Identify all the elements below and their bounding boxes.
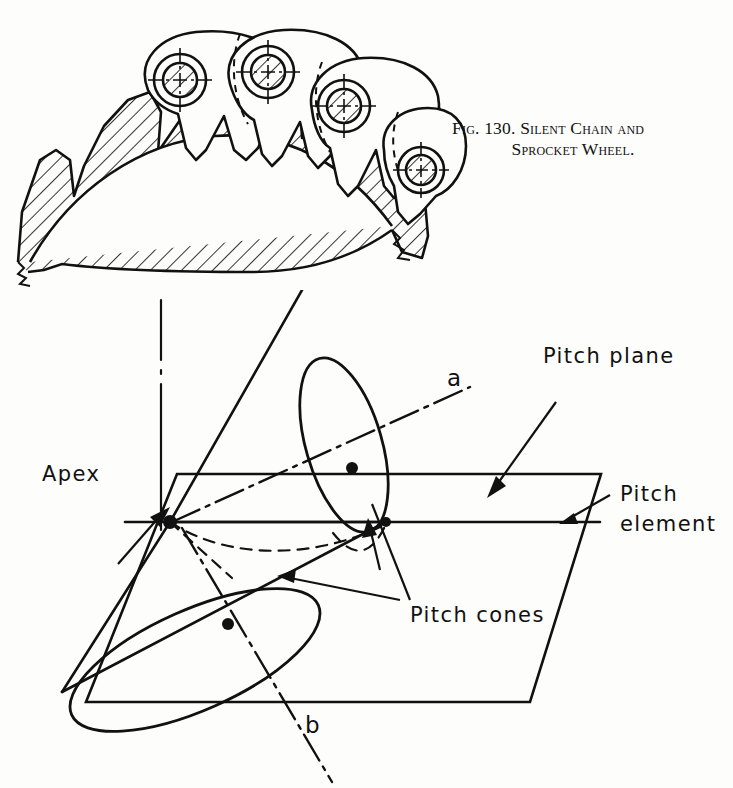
- caption-line-1: Fig. 130. Silent Chain and: [452, 118, 720, 139]
- axis-a-centerline: [172, 387, 470, 522]
- pitch-element-leader: [559, 495, 610, 524]
- upper-cone-axis-point: [346, 462, 358, 474]
- leader-lines: [118, 402, 610, 600]
- lower-cone-edge: [62, 522, 170, 692]
- pitch-cones-leader-upper: [372, 504, 410, 600]
- lower-pitch-cone: [51, 522, 386, 761]
- caption-line-2: Sprocket Wheel.: [452, 139, 720, 160]
- upper-pitch-cone: [170, 290, 405, 551]
- upper-cone-edge: [170, 290, 318, 522]
- lower-cone-axis-point: [222, 618, 234, 630]
- upper-cone-base-ellipse: [283, 348, 406, 542]
- pitch-plane-leader: [487, 402, 556, 498]
- label-pitch-element-line1: Pitch: [620, 482, 678, 506]
- axis-b-centerline: [182, 528, 332, 782]
- scanned-figure-page: Fig. 130. Silent Chain and Sprocket Whee…: [0, 0, 733, 788]
- label-axis-b: b: [305, 712, 320, 738]
- label-axis-a: a: [447, 365, 461, 391]
- arrowhead: [277, 569, 296, 583]
- apex-point: [163, 515, 177, 529]
- label-pitch-plane: Pitch plane: [543, 344, 674, 368]
- label-pitch-cones: Pitch cones: [410, 603, 545, 627]
- lower-cone-hidden-edge: [170, 522, 232, 578]
- figure-130-caption: Fig. 130. Silent Chain and Sprocket Whee…: [452, 118, 720, 159]
- arrowhead: [487, 476, 506, 498]
- label-pitch-element-line2: element: [620, 512, 716, 536]
- pitch-cones-leader-lower: [277, 569, 400, 600]
- lower-cone-base-ellipse: [51, 559, 338, 760]
- lower-cone-edge: [62, 522, 386, 692]
- label-apex: Apex: [42, 462, 100, 486]
- upper-cone-hidden-edge: [170, 522, 386, 551]
- pitch-element-tangent-point: [381, 517, 391, 527]
